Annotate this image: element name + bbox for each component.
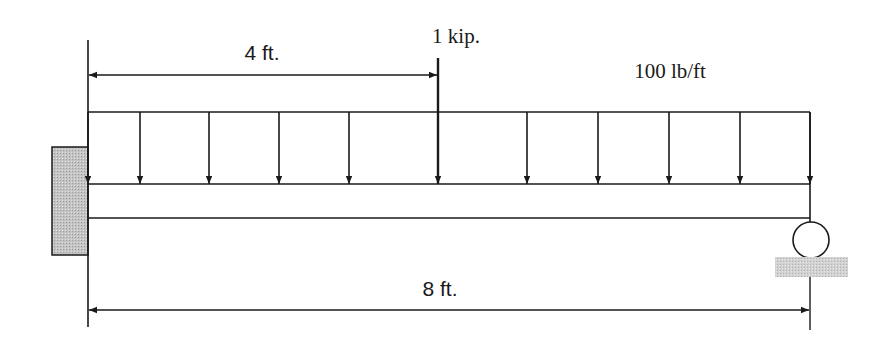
roller-support [775,222,848,277]
beam [88,184,810,218]
fixed-support [52,147,88,255]
distributed-load-arrows [88,112,810,184]
beam-diagram: 4 ft. 1 kip. 100 lb/ft 8 ft. [0,0,891,359]
label-4ft: 4 ft. [244,41,279,64]
label-100lbft: 100 lb/ft [634,59,706,83]
label-8ft: 8 ft. [422,277,457,300]
ground-hatch [775,257,848,277]
label-1kip: 1 kip. [432,24,480,48]
